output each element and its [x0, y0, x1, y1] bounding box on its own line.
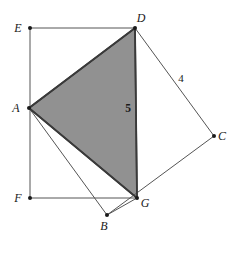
vertex-dot-A	[27, 106, 31, 110]
length-label-5: 5	[125, 102, 131, 114]
vertex-dot-F	[28, 196, 32, 200]
vertex-dot-D	[133, 26, 137, 30]
vertex-dot-B	[105, 213, 109, 217]
point-label-A: A	[11, 101, 20, 115]
point-label-D: D	[136, 11, 146, 25]
vertex-dot-E	[28, 26, 32, 30]
point-label-C: C	[218, 129, 227, 143]
length-label-4: 4	[178, 72, 184, 84]
point-label-G: G	[141, 196, 150, 210]
point-label-F: F	[13, 191, 22, 205]
geometry-figure: E D A C F G B 5 4	[0, 0, 242, 255]
point-label-B: B	[100, 219, 108, 233]
point-label-E: E	[13, 21, 22, 35]
vertex-dot-C	[212, 134, 216, 138]
vertex-dot-G	[135, 196, 139, 200]
